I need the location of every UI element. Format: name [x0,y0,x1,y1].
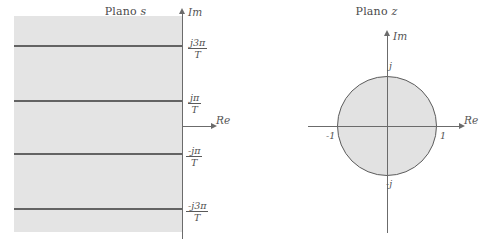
s-plane-tick-3-denominator: T [186,156,202,167]
s-plane-tick-label-jpi-over-T: jπ T [188,93,201,114]
s-plane-tick-2-numerator: jπ [188,93,201,103]
s-plane-strip-line-2 [14,100,182,102]
s-plane-tick-label-j3pi-over-T: j3π T [188,38,207,59]
z-plane-imaginary-axis-label: Im [393,30,407,42]
z-plane-real-axis-label: Re [464,114,478,126]
figure-canvas: Plano s Im Re j3π T jπ T -jπ T -j3π [0,0,502,243]
s-plane-tick-1-numerator: j3π [188,38,207,48]
s-plane-tick-label-negative-j3pi-over-T: -j3π T [186,201,208,222]
z-plane-tick-label-negative-j: -j [386,178,392,189]
s-plane-tick-4-numerator: -j3π [186,201,208,211]
z-plane-tick-label-negative-1: -1 [326,130,335,141]
s-plane-tick-2-denominator: T [188,103,201,114]
s-plane-tick-3-value: jπ [191,145,200,156]
s-plane-strip-line-4 [14,208,182,210]
s-plane-strip-line-1 [14,45,182,47]
s-plane-tick-label-negative-jpi-over-T: -jπ T [186,146,202,167]
s-plane-tick-4-value: j3π [191,200,206,211]
s-plane-shaded-region [14,16,182,232]
z-plane-tick-label-j: j [389,60,392,71]
s-plane-tick-4-denominator: T [186,211,208,222]
z-plane-imaginary-axis-arrow-icon [384,30,390,36]
z-plane-title: Plano z [251,5,502,18]
z-plane-real-axis [308,126,460,128]
s-plane-real-axis [182,126,212,128]
s-plane-imaginary-axis-label: Im [188,6,202,18]
z-plane-title-prefix: Plano [356,5,392,18]
s-plane-imaginary-axis-arrow-icon [179,8,185,14]
z-plane-title-variable: z [391,5,397,18]
z-plane-imaginary-axis [387,36,389,233]
s-plane-panel: Plano s Im Re j3π T jπ T -jπ T -j3π [0,0,251,243]
s-plane-strip-line-3 [14,153,182,155]
s-plane-tick-1-denominator: T [188,48,207,59]
z-plane-tick-label-1: 1 [440,130,446,141]
s-plane-tick-3-numerator: -jπ [186,146,202,156]
s-plane-real-axis-label: Re [216,114,230,126]
